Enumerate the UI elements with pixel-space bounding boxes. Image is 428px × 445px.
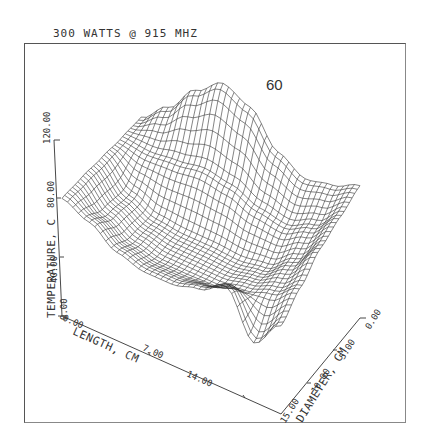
surface-line-length: [65, 195, 284, 338]
surface-line-diameter: [68, 117, 147, 202]
x-tick-7: 7.00: [141, 343, 165, 361]
y-tick-0: 0.00: [363, 307, 383, 331]
surface-line-length: [131, 128, 350, 208]
z-tick-80: 80.00: [46, 181, 56, 208]
surface-line-length: [128, 131, 347, 215]
temperature-surface: [62, 83, 360, 343]
surface-line-diameter: [150, 87, 229, 274]
x-axis-label: LENGTH, CM: [71, 325, 141, 366]
y-axis-label: DIAMETER, CM: [294, 345, 350, 424]
surface-line-length: [115, 145, 334, 240]
surface-line-length: [141, 83, 360, 187]
surface-line-diameter: [161, 98, 240, 279]
surface-line-diameter: [100, 102, 179, 234]
x-tick-14: 14.00: [185, 369, 214, 389]
surface-plot: 0.00 40.00 80.00 120.00 TEMPERATURE, C 0…: [0, 0, 428, 445]
z-tick-120: 120.00: [42, 111, 52, 144]
surface-line-diameter: [210, 162, 289, 289]
surface-line-diameter: [62, 117, 141, 198]
surface-line-length: [88, 171, 307, 284]
surface-line-length: [67, 193, 286, 332]
surface-line-length: [102, 158, 321, 269]
surface-line-diameter: [215, 169, 294, 289]
surface-line-length: [83, 176, 302, 292]
surface-line-diameter: [281, 186, 360, 326]
surface-line-length: [133, 114, 352, 202]
x-axis: [62, 316, 281, 414]
surface-line-diameter: [73, 114, 152, 207]
z-axis-label: TEMPERATURE, C: [45, 218, 58, 318]
